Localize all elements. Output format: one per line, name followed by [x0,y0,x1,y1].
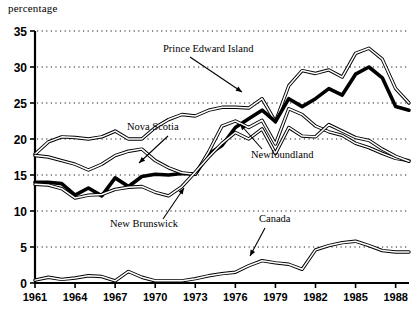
x-tick-label: 1970 [143,291,167,303]
annotation-label: New Brunswick [110,218,179,229]
line-chart: 05101520253035 1961196419671970197319761… [0,0,415,309]
x-tick-label: 1985 [343,291,367,303]
series-prince-edward-island [35,48,409,154]
annotation-prince-edward-island: Prince Edward Island [163,43,254,92]
chart-container: percentage 05101520253035 19611964196719… [0,0,415,309]
annotation-canada: Canada [250,213,291,256]
annotation-label: Prince Edward Island [163,43,254,54]
axis-lines [35,31,409,283]
series-new-brunswick [35,125,409,198]
x-tick-label: 1964 [63,291,88,303]
data-series [35,48,409,281]
annotation-label: Newfoundland [251,149,314,160]
y-axis-ticks: 05101520253035 [14,25,35,291]
series-nova-scotia [35,67,409,196]
y-tick-label: 5 [20,241,27,255]
x-axis-ticks: 1961196419671970197319761979198219851988 [23,283,408,303]
x-tick-label: 1988 [383,291,407,303]
y-tick-label: 10 [14,205,28,219]
y-tick-label: 0 [20,277,27,291]
x-tick-label: 1973 [183,291,207,303]
y-tick-label: 15 [14,169,28,183]
x-tick-label: 1967 [103,291,127,303]
y-tick-label: 25 [14,97,28,111]
annotation-label: Nova Scotia [127,121,179,132]
y-tick-label: 35 [14,25,28,39]
x-tick-label: 1982 [303,291,327,303]
y-tick-label: 30 [14,61,28,75]
x-tick-label: 1976 [223,291,247,303]
x-tick-label: 1979 [263,291,287,303]
y-tick-label: 20 [14,133,28,147]
annotation-label: Canada [259,213,291,224]
x-tick-label: 1961 [23,291,47,303]
